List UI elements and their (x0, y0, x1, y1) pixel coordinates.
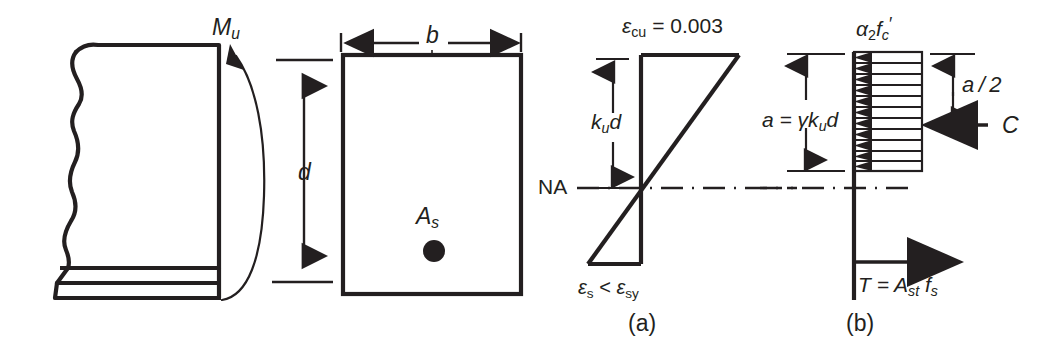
label-compression-force-c: C (1002, 112, 1019, 139)
moment-arrow-mu (222, 44, 264, 300)
cross-section-rect (343, 55, 521, 294)
label-neutral-axis-na: NA (538, 175, 567, 199)
caption-b: (b) (846, 310, 874, 337)
stress-block-diagram (760, 52, 988, 300)
label-tension-force-t: T = Ast fs (858, 273, 938, 299)
label-effective-depth-d: d (298, 159, 311, 186)
caption-a: (a) (628, 310, 656, 337)
strain-diagram-profile (577, 55, 797, 264)
label-section-width-b: b (426, 22, 439, 49)
stress-arrowheads (854, 52, 872, 171)
label-stress-block-depth: a = γkud (762, 108, 838, 134)
label-concrete-stress-alpha2fc: α2fc′ (856, 14, 892, 43)
figure-root: Mu d b As εcu = 0.003 kud NA εs < εsy (a… (0, 0, 1041, 354)
figure-vector (0, 0, 1041, 354)
label-steel-strain-inequality: εs < εsy (578, 276, 639, 301)
label-neutral-axis-depth-kud: kud (591, 110, 621, 136)
label-lever-arm-a-over-2: a / 2 (962, 72, 1001, 98)
beam-elevation-outline (55, 45, 221, 298)
label-steel-area-as: As (416, 203, 439, 232)
reinforcement-bar-dot (423, 240, 445, 262)
label-ultimate-concrete-strain: εcu = 0.003 (622, 14, 723, 40)
label-moment-mu: Mu (212, 14, 240, 43)
